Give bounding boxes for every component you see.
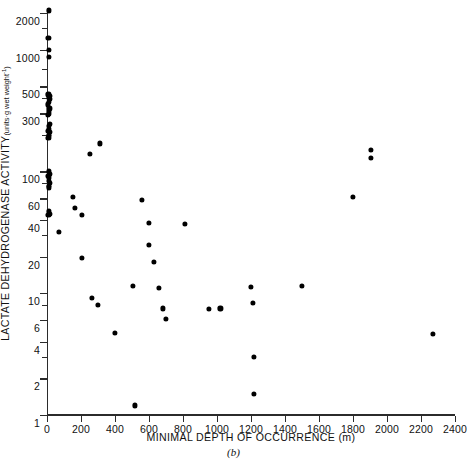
x-axis-tick <box>455 416 456 422</box>
y-axis-tick <box>40 257 47 258</box>
data-point <box>56 229 61 234</box>
data-point <box>97 141 102 146</box>
data-point <box>250 300 255 305</box>
data-point <box>79 212 84 217</box>
plot-area: 0200400600800100012001400160018002000220… <box>47 8 455 415</box>
data-point <box>218 306 223 311</box>
data-point <box>146 220 151 225</box>
data-point <box>72 206 77 211</box>
y-axis-tick-label: 500 <box>22 88 40 100</box>
y-axis-tick <box>40 198 47 199</box>
y-axis-tick <box>40 86 47 87</box>
y-axis-tick-label: 100 <box>22 173 40 185</box>
x-axis-tick <box>353 416 354 422</box>
y-axis-tick-label: 2000 <box>16 15 40 27</box>
data-point <box>46 47 51 52</box>
y-axis-tick-label: 2 <box>34 380 40 392</box>
data-point <box>251 354 256 359</box>
data-point <box>130 283 135 288</box>
y-axis-tick-label: 300 <box>22 115 40 127</box>
data-point <box>112 331 117 336</box>
figure-scatter-ldh-vs-depth: LACTATE DEHYDROGENASE ACTIVITY(units·g w… <box>0 0 467 461</box>
data-point <box>95 302 100 307</box>
data-point <box>206 307 211 312</box>
y-axis-tick <box>40 13 47 14</box>
data-point <box>46 54 51 59</box>
data-point <box>157 286 162 291</box>
y-axis-tick <box>40 320 47 321</box>
x-axis-tick <box>47 416 48 422</box>
x-axis-tick <box>421 416 422 422</box>
x-axis-tick <box>285 416 286 422</box>
x-axis-tick <box>319 416 320 422</box>
data-point <box>87 151 92 156</box>
y-axis-tick <box>40 293 47 294</box>
y-axis-tick-label: 40 <box>28 222 40 234</box>
data-point <box>70 194 75 199</box>
data-point <box>251 391 256 396</box>
y-axis-minor-tick <box>42 357 47 358</box>
y-axis-tick-label: 1000 <box>16 52 40 64</box>
data-point <box>140 198 145 203</box>
data-point <box>46 185 51 190</box>
data-point <box>182 221 187 226</box>
y-axis-tick-label: 60 <box>28 200 40 212</box>
data-point <box>89 295 94 300</box>
y-axis-minor-tick <box>42 235 47 236</box>
data-point <box>79 255 84 260</box>
data-point <box>46 113 51 118</box>
data-point <box>152 260 157 265</box>
x-axis-tick <box>251 416 252 422</box>
y-axis-tick-label: 1 <box>34 417 40 429</box>
x-axis-tick <box>183 416 184 422</box>
x-axis-label: MINIMAL DEPTH OF OCCURRENCE (m) <box>47 431 455 443</box>
figure-caption: (b) <box>0 446 467 458</box>
data-point <box>368 155 373 160</box>
y-axis-tick <box>40 378 47 379</box>
data-point <box>132 403 137 408</box>
data-point <box>46 135 51 140</box>
y-axis-tick-label: 6 <box>34 322 40 334</box>
x-axis-tick <box>115 416 116 422</box>
data-point <box>146 242 151 247</box>
y-axis-tick-label: 4 <box>34 344 40 356</box>
x-axis-tick <box>81 416 82 422</box>
data-point <box>160 306 165 311</box>
y-axis-minor-tick <box>42 28 47 29</box>
y-axis-tick-label: 20 <box>28 259 40 271</box>
y-axis-tick <box>40 220 47 221</box>
data-point <box>430 332 435 337</box>
data-point <box>46 8 51 13</box>
data-point <box>46 212 51 217</box>
x-axis-tick <box>387 416 388 422</box>
data-point <box>350 194 355 199</box>
x-axis-tick <box>149 416 150 422</box>
data-point <box>163 316 168 321</box>
y-axis-tick <box>40 415 47 416</box>
data-point <box>248 284 253 289</box>
data-point <box>46 35 51 40</box>
y-axis-minor-tick <box>42 69 47 70</box>
y-axis-tick <box>40 342 47 343</box>
y-axis-tick-labels: 12461020406010030050010002000 <box>0 8 40 415</box>
x-axis-tick <box>217 416 218 422</box>
y-axis-minor-tick <box>42 305 47 306</box>
y-axis-tick-label: 10 <box>28 295 40 307</box>
data-point <box>368 147 373 152</box>
data-point <box>299 283 304 288</box>
